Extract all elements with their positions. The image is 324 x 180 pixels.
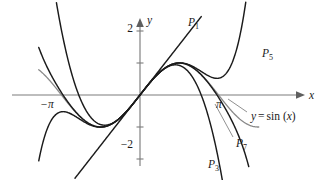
axes-group: [12, 18, 305, 166]
curve-label-p7: P7: [235, 137, 247, 152]
curves-group: [39, 2, 259, 180]
curve-label-p3: P3: [207, 158, 219, 173]
taylor-polynomial-figure: 2 −2 −π π y x P1 P5 P3 P7 y=sin (x): [0, 0, 324, 180]
curve-p1: [75, 17, 201, 179]
plot-canvas: 2 −2 −π π y x P1 P5 P3 P7 y=sin (x): [0, 0, 324, 180]
axis-name-labels: y x: [146, 14, 315, 101]
y-axis-arrowhead: [136, 18, 144, 27]
tick-labels: 2 −2 −π π: [40, 22, 223, 150]
curve-label-p5: P5: [261, 47, 273, 62]
curve-label-sin: y=sin (x): [250, 110, 296, 123]
y-axis-label: y: [146, 14, 153, 27]
y-tick-label-2: 2: [127, 22, 133, 34]
curve-label-p1: P1: [187, 16, 199, 31]
curve-p3: [56, 3, 224, 180]
x-axis-arrowhead: [296, 91, 305, 99]
y-tick-label-minus-2: −2: [121, 138, 133, 150]
x-axis-label: x: [308, 89, 315, 101]
x-tick-label-minus-pi: −π: [40, 98, 55, 110]
